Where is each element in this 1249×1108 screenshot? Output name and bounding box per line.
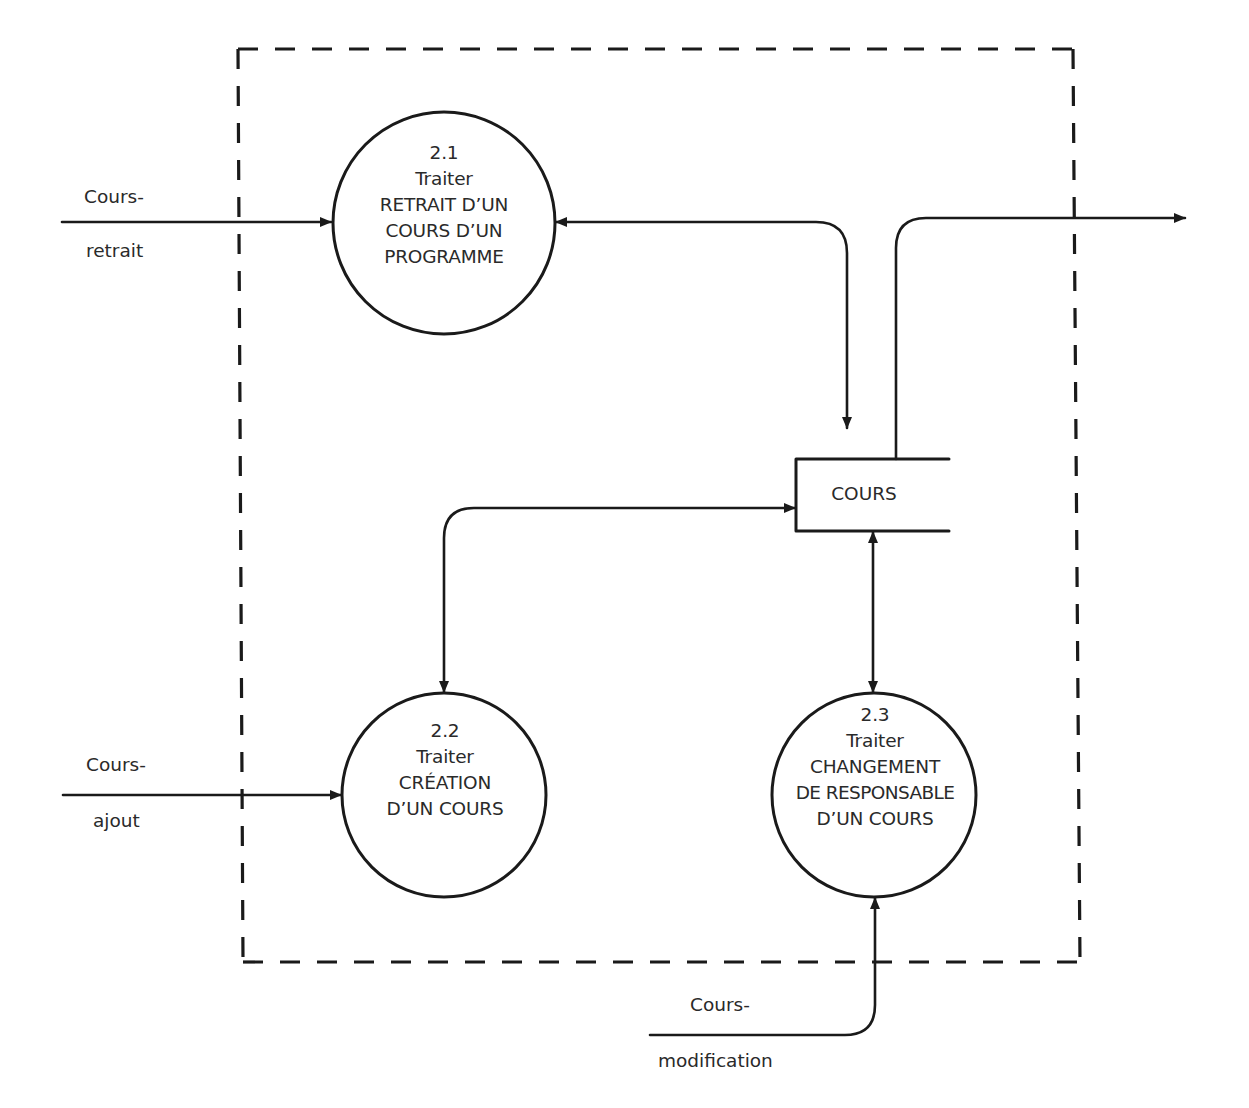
process-2-3: 2.3 Traiter CHANGEMENT DE RESPONSABLE D’… xyxy=(796,702,955,832)
data-store-cours-label: COURS xyxy=(831,481,897,507)
process-2-2: 2.2 Traiter CRÉATION D’UN COURS xyxy=(386,718,503,822)
process-line: Traiter xyxy=(796,728,955,754)
process-number: 2.2 xyxy=(386,718,503,744)
flow-label-cours-retrait-bottom: retrait xyxy=(86,238,143,264)
process-line: Traiter xyxy=(386,744,503,770)
flow-2-1-cours-link xyxy=(556,222,847,428)
flow-label-cours-ajout-top: Cours- xyxy=(86,752,146,778)
flow-label-cours-retrait-top: Cours- xyxy=(84,184,144,210)
process-line: CRÉATION xyxy=(386,770,503,796)
process-line: COURS D’UN xyxy=(380,218,508,244)
process-line: RETRAIT D’UN xyxy=(380,192,508,218)
process-line: D’UN COURS xyxy=(796,806,955,832)
process-line: PROGRAMME xyxy=(380,244,508,270)
flow-label-cours-modification-bottom: modification xyxy=(658,1048,773,1074)
process-line: DE RESPONSABLE xyxy=(796,780,955,806)
process-number: 2.3 xyxy=(796,702,955,728)
flow-cours-modification-arrow xyxy=(650,898,875,1035)
flow-label-cours-ajout-bottom: ajout xyxy=(93,808,140,834)
flow-label-cours-modification-top: Cours- xyxy=(690,992,750,1018)
flow-cours-2-2-link xyxy=(444,508,795,692)
process-2-1: 2.1 Traiter RETRAIT D’UN COURS D’UN PROG… xyxy=(380,140,508,270)
process-line: Traiter xyxy=(380,166,508,192)
process-number: 2.1 xyxy=(380,140,508,166)
process-line: CHANGEMENT xyxy=(796,754,955,780)
process-line: D’UN COURS xyxy=(386,796,503,822)
dfd-canvas xyxy=(0,0,1249,1108)
flow-cours-output-arrow xyxy=(896,218,1185,459)
